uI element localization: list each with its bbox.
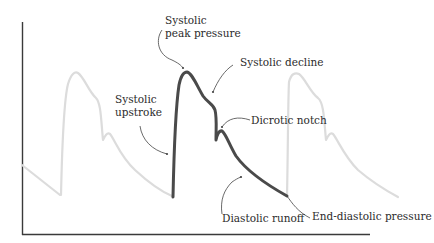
- arterial-waveform-diagram: Systolic peak pressure Systolic decline …: [0, 0, 434, 243]
- label-systolic-decline: Systolic decline: [240, 56, 324, 69]
- label-dicrotic-notch: Dicrotic notch: [251, 114, 327, 127]
- leader-diastolic-runoff: [221, 177, 241, 214]
- label-systolic-upstroke-line1: Systolic: [115, 93, 162, 106]
- main-waveform: [173, 72, 287, 197]
- arrow-tip-peak: [182, 67, 184, 69]
- label-end-diastolic-pressure: End-diastolic pressure: [312, 210, 432, 223]
- arrow-tip-notch: [221, 126, 223, 128]
- ghost-waveform-right: [287, 73, 398, 197]
- leader-dicrotic-notch: [222, 118, 250, 127]
- arrow-tip-upstroke: [166, 153, 168, 155]
- label-systolic-upstroke-line2: upstroke: [115, 106, 162, 119]
- arrow-tip-decline: [212, 91, 214, 93]
- ghost-waveform-left: [22, 72, 172, 196]
- arrow-tip-runoff: [240, 176, 242, 178]
- label-systolic-upstroke: Systolic upstroke: [115, 93, 162, 119]
- leader-systolic-decline: [213, 65, 233, 92]
- label-systolic-peak-line2: peak pressure: [165, 27, 241, 40]
- label-diastolic-runoff: Diastolic runoff: [222, 212, 304, 225]
- leader-systolic-upstroke: [140, 126, 167, 154]
- label-systolic-peak-line1: Systolic: [165, 14, 241, 27]
- label-systolic-peak: Systolic peak pressure: [165, 14, 241, 40]
